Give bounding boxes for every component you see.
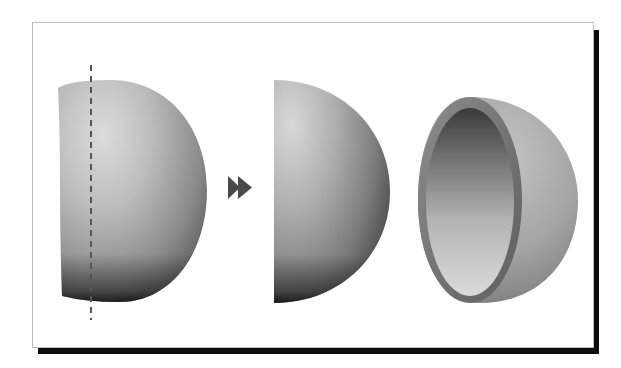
solid-hemisphere	[274, 80, 390, 303]
half-sphere-bottom-shade	[274, 80, 390, 303]
figure-canvas	[0, 0, 621, 368]
transform-arrow-icon	[228, 176, 252, 199]
sphere-with-cut-line	[58, 65, 207, 320]
truncated-sphere-bottom-shade	[58, 80, 207, 302]
shell-inner-cavity	[426, 108, 514, 296]
hollow-hemisphere-shell	[418, 97, 578, 303]
